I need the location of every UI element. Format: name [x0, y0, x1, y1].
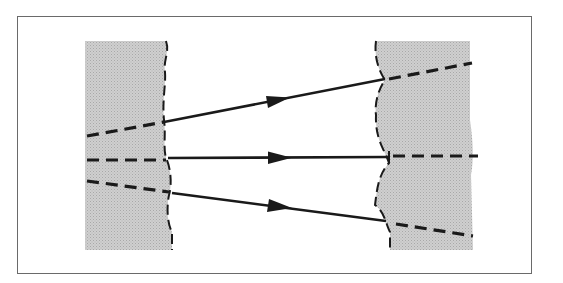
arrowhead-middle-icon [268, 152, 292, 165]
arrowhead-upper-icon [266, 96, 290, 108]
arrowhead-lower-icon [267, 199, 292, 212]
right-medium [375, 41, 473, 250]
left-medium [85, 41, 172, 250]
refraction-diagram [0, 0, 563, 283]
